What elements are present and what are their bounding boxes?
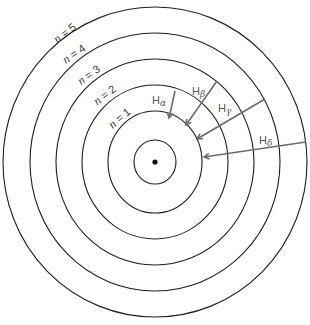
orbit-label-n2: n = 2 [91, 82, 119, 108]
transition-h-delta [204, 142, 306, 159]
orbit-label-n3: n = 3 [75, 62, 103, 88]
transition-arrow-line [197, 99, 265, 139]
labels-group: n = 1n = 2n = 3n = 4n = 5HαHβHγHδ [51, 20, 273, 148]
transition-label-base: H [152, 94, 160, 106]
orbit-label-n4: n = 4 [60, 41, 88, 66]
transition-arrow-line [186, 81, 217, 125]
bohr-model-diagram: n = 1n = 2n = 3n = 4n = 5HαHβHγHδ [0, 0, 310, 325]
transition-arrow-line [204, 142, 306, 157]
transition-label-base: H [259, 134, 267, 146]
transition-label-subscript: δ [267, 138, 272, 148]
orbit-label-n1: n = 1 [105, 105, 133, 132]
orbit-label-n5: n = 5 [51, 20, 79, 46]
transition-label-h-delta: Hδ [259, 134, 272, 148]
transition-label-h-alpha: Hα [152, 94, 166, 108]
transition-label-subscript: γ [226, 106, 232, 116]
nucleus-dot [152, 159, 157, 164]
transition-label-base: H [218, 102, 226, 114]
transitions-group [167, 81, 306, 159]
transition-label-h-beta: Hβ [192, 85, 205, 99]
transition-h-beta [186, 81, 217, 125]
transition-label-subscript: β [199, 89, 205, 99]
transition-label-base: H [192, 85, 200, 97]
transition-label-h-gamma: Hγ [218, 102, 232, 116]
core-group [134, 140, 176, 184]
transition-h-gamma [197, 99, 265, 139]
transition-label-subscript: α [160, 98, 166, 108]
